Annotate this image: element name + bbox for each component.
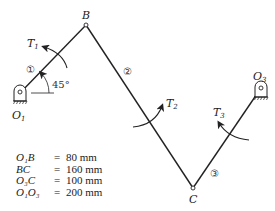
dimension-value: 200 mm — [66, 187, 102, 199]
dimension-row: O₁O₃ = 200 mm — [16, 187, 102, 199]
link-1-marker: ① — [26, 64, 35, 75]
linkage-diagram: B C O1 O3 T1 T2 T3 ① ② ③ 45° O₁B = 80 mm… — [0, 0, 275, 211]
dimension-name: O₃C — [16, 175, 48, 187]
dimension-row: O₁B = 80 mm — [16, 152, 102, 164]
dimension-value: 100 mm — [66, 175, 102, 187]
dimension-row: O₃C = 100 mm — [16, 175, 102, 187]
torque-t3-arrow-icon — [219, 123, 249, 140]
torque-t2-arrow-icon — [133, 106, 162, 127]
label-c: C — [189, 193, 198, 206]
label-t1: T1 — [27, 37, 39, 51]
label-t2: T2 — [166, 97, 178, 111]
dimension-value: 80 mm — [66, 152, 97, 164]
dimension-equals: = — [48, 187, 66, 199]
joint-b-icon — [84, 23, 88, 27]
dimension-equals: = — [48, 152, 66, 164]
dimensions-table: O₁B = 80 mm BC = 160 mm O₃C = 100 mm O₁O… — [16, 152, 102, 198]
link-3 — [193, 88, 261, 188]
angle-label: 45° — [52, 79, 70, 90]
joint-c-icon — [191, 186, 195, 190]
dimension-name: O₁O₃ — [16, 187, 48, 199]
link-3-marker: ③ — [210, 168, 219, 179]
dimension-name: O₁B — [16, 152, 48, 164]
label-t3: T3 — [213, 106, 225, 120]
dimension-equals: = — [48, 175, 66, 187]
label-b: B — [81, 9, 90, 22]
ground-support-o1-icon — [13, 85, 27, 104]
label-o3: O3 — [253, 70, 267, 84]
label-o1: O1 — [12, 109, 26, 123]
angle-arc-icon — [41, 73, 49, 93]
link-2-marker: ② — [123, 66, 132, 77]
